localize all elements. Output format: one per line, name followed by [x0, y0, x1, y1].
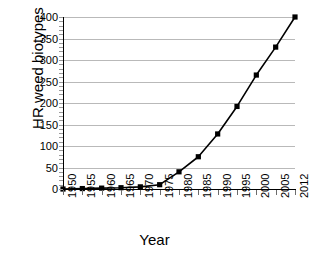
y-tick-label: 200 [20, 98, 58, 109]
y-minor-tick [59, 176, 63, 177]
y-tick-label: 150 [20, 120, 58, 131]
y-minor-tick [59, 30, 63, 31]
data-series-line [63, 17, 296, 190]
x-tick-label: 2000 [260, 174, 271, 198]
x-tick-label: 1985 [202, 174, 213, 198]
y-tick-label: 100 [20, 141, 58, 152]
y-minor-tick [59, 185, 63, 186]
y-minor-tick [59, 73, 63, 74]
x-tick [140, 190, 141, 195]
y-minor-tick [59, 125, 63, 126]
data-point-marker [215, 131, 220, 136]
y-minor-tick [59, 69, 63, 70]
x-tick-label: 2012 [299, 174, 309, 198]
x-tick [82, 190, 83, 195]
x-tick [218, 190, 219, 195]
y-tick-label: 250 [20, 77, 58, 88]
x-tick [63, 190, 64, 195]
y-minor-tick [59, 146, 63, 147]
y-minor-tick [59, 112, 63, 113]
x-tick-label: 1970 [144, 174, 155, 198]
y-minor-tick [59, 103, 63, 104]
data-point-marker [292, 14, 297, 19]
y-minor-tick [59, 133, 63, 134]
x-tick [295, 190, 296, 195]
y-minor-tick [59, 142, 63, 143]
data-point-marker [234, 104, 239, 109]
y-minor-tick [59, 172, 63, 173]
y-minor-tick [59, 150, 63, 151]
chart-figure: HR weed biotypes 05010015020025030035040… [0, 0, 309, 258]
data-point-marker [273, 45, 278, 50]
x-tick [256, 190, 257, 195]
y-minor-tick [59, 159, 63, 160]
y-minor-tick [59, 51, 63, 52]
x-tick [179, 190, 180, 195]
y-tick-label: 400 [20, 12, 58, 23]
y-tick-label: 0 [20, 184, 58, 195]
y-tick-label: 50 [20, 163, 58, 174]
y-minor-tick [59, 17, 63, 18]
data-point-marker [254, 72, 259, 77]
y-minor-tick [59, 39, 63, 40]
x-tick [121, 190, 122, 195]
y-minor-tick [59, 82, 63, 83]
data-point-marker [176, 169, 181, 174]
x-tick-label: 1975 [164, 174, 175, 198]
y-minor-tick [59, 163, 63, 164]
x-tick-label: 1980 [183, 174, 194, 198]
y-minor-tick [59, 34, 63, 35]
y-minor-tick [59, 64, 63, 65]
x-tick-label: 1950 [67, 174, 78, 198]
y-minor-tick [59, 155, 63, 156]
y-minor-tick [59, 43, 63, 44]
y-minor-tick [59, 99, 63, 100]
data-point-marker [196, 154, 201, 159]
y-minor-tick [59, 56, 63, 57]
x-tick [160, 190, 161, 195]
data-point-marker [157, 182, 162, 187]
y-minor-tick [59, 90, 63, 91]
y-minor-tick [59, 129, 63, 130]
x-tick-label: 1965 [125, 174, 136, 198]
y-minor-tick [59, 26, 63, 27]
y-minor-tick [59, 120, 63, 121]
y-minor-tick [59, 94, 63, 95]
y-minor-tick [59, 107, 63, 108]
y-minor-tick [59, 21, 63, 22]
y-tick-label: 350 [20, 34, 58, 45]
y-tick-label: 300 [20, 55, 58, 66]
y-axis-tick-labels: 050100150200250300350400 [16, 17, 58, 190]
y-minor-tick [59, 180, 63, 181]
y-minor-tick [59, 168, 63, 169]
y-minor-tick [59, 77, 63, 78]
x-tick-label: 1955 [86, 174, 97, 198]
y-minor-tick [59, 116, 63, 117]
series-polyline [63, 17, 295, 189]
x-tick-label: 2005 [280, 174, 291, 198]
y-minor-tick [59, 47, 63, 48]
x-tick [198, 190, 199, 195]
x-tick [237, 190, 238, 195]
x-axis-title: Year [0, 231, 309, 248]
x-tick-label: 1995 [241, 174, 252, 198]
x-tick [102, 190, 103, 195]
y-minor-tick [59, 86, 63, 87]
x-tick-label: 1990 [222, 174, 233, 198]
x-tick [276, 190, 277, 195]
x-tick-label: 1960 [106, 174, 117, 198]
y-minor-tick [59, 137, 63, 138]
y-minor-tick [59, 60, 63, 61]
